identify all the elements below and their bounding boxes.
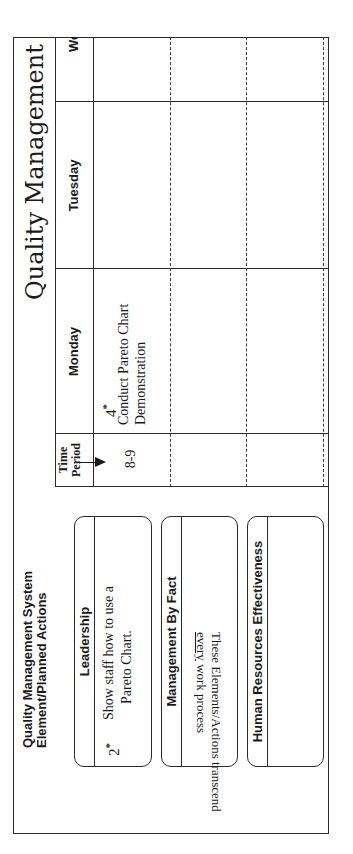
element-title-human-resources-effectiveness: Human Resources Effectiveness: [248, 517, 267, 766]
footer-note-line2: every work process: [194, 632, 209, 832]
document-title: Quality Management System: [16, 37, 54, 300]
elements-heading-line2: Element/Planned Actions: [35, 548, 49, 748]
element-title-management-by-fact: Management By Fact: [162, 517, 181, 766]
footer-note-line1: These Elements/Actions transcend: [209, 632, 224, 832]
monday-entry-cell[interactable]: 4* Conduct Pareto Chart Demonstration: [96, 269, 168, 429]
day-header-monday: Monday: [55, 269, 93, 434]
element-divider-leadership: [94, 517, 95, 766]
element-box-human-resources-effectiveness[interactable]: Human Resources Effectiveness: [247, 516, 324, 767]
grid-time-divider: [55, 433, 329, 434]
grid-left-line: [55, 486, 329, 487]
time-arrow-icon: [80, 444, 120, 474]
element-box-leadership[interactable]: Leadership 2* Show staff how to use a Pa…: [74, 516, 152, 767]
day-header-tuesday: Tuesday: [55, 102, 93, 269]
element-title-leadership: Leadership: [75, 517, 94, 766]
grid-row-divider-1: [170, 37, 171, 487]
element-divider-management-by-fact: [181, 517, 182, 766]
elements-heading: Quality Management System Element/Planne…: [21, 548, 49, 748]
day-header-wednesday: We: [55, 37, 93, 102]
wednesday-slot-1[interactable]: [93, 37, 170, 102]
quality-management-planner-page: Quality Management System Time Period Mo…: [0, 0, 353, 854]
element-action-leadership-line2: Pareto Chart.: [119, 630, 135, 704]
monday-entry-text-line1: Conduct Pareto Chart: [116, 304, 132, 425]
elements-heading-line1: Quality Management System: [21, 548, 35, 748]
element-divider-human-resources-effectiveness: [267, 517, 268, 766]
grid-row-divider-3: [323, 37, 324, 487]
time-slot-label: 8-9: [123, 436, 139, 482]
tuesday-slot-1[interactable]: [93, 102, 170, 269]
element-action-leadership-line1: Show staff how to use a: [101, 586, 117, 720]
grid-row-divider-2: [246, 37, 247, 487]
footer-note: These Elements/Actions transcend every w…: [190, 632, 224, 832]
monday-entry-text-line2: Demonstration: [133, 342, 149, 425]
element-number-leadership: 2*: [101, 743, 122, 756]
document-title-region: Quality Management System: [13, 37, 55, 300]
